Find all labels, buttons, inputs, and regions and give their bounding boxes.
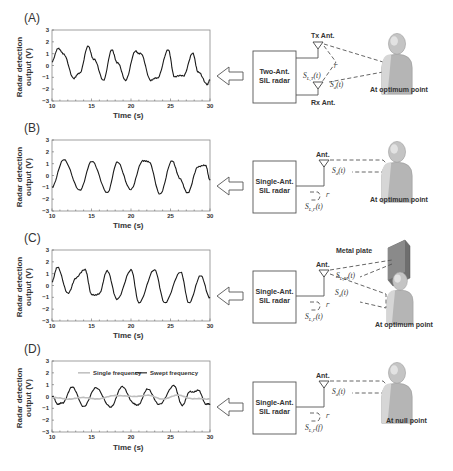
target-echo-path [324, 44, 383, 82]
figure-panel-d: (D) −3−2−101231015202530Single frequency… [0, 331, 453, 441]
antenna-icon [313, 82, 323, 89]
leakage-loop [309, 302, 320, 310]
antenna-icon [319, 160, 329, 167]
radar-box-line1: Two-Ant. [259, 67, 289, 76]
gamma-label: Γ [326, 302, 330, 308]
leakage-signal-label: SL,T(t) [303, 71, 321, 82]
rx-antenna-label: Rx Ant. [311, 99, 335, 106]
position-label: At optimum point [375, 321, 434, 329]
position-label: At null point [386, 417, 427, 425]
tx-antenna-label: Tx Ant. [311, 32, 335, 39]
radar-setup-diagram: Single-Ant.SIL radarAnt.ΓSL,Γ(t)Sd(t)At … [0, 110, 453, 220]
leakage-loop [309, 192, 320, 200]
metal-plate-label: Metal plate [336, 247, 372, 255]
antenna-label: Ant. [316, 261, 330, 268]
leakage-signal-label: SL,Γ(t) [305, 312, 323, 323]
leakage-signal-label: SL,Γ(t) [305, 202, 323, 213]
antenna-label: Ant. [316, 372, 330, 379]
output-arrow-icon [217, 177, 243, 195]
leakage-loop [309, 413, 320, 421]
target-signal-label: Sd(t) [330, 80, 344, 90]
target-signal-label: Sd(t) [332, 387, 346, 397]
output-arrow-icon [217, 398, 243, 416]
figure-panel-a: (A) −3−2−101231015202530 Radar detection… [0, 0, 453, 110]
figure-panel-c: (C) −3−2−101231015202530 Radar detection… [0, 220, 453, 330]
radar-box-line1: Single-Ant. [256, 177, 294, 186]
figure-panel-b: (B) −3−2−101231015202530 Radar detection… [0, 110, 453, 220]
radar-box-line1: Single-Ant. [256, 287, 294, 296]
radar-setup-diagram: Two-Ant.SIL radarTx Ant.Rx Ant.ΓSL,T(t)S… [0, 0, 453, 110]
antenna-label: Ant. [316, 151, 330, 158]
gamma-label: Γ [334, 63, 338, 69]
target-signal-label: Sd(t) [332, 166, 346, 176]
antenna-icon [313, 42, 323, 49]
radar-setup-diagram: Single-Ant.SIL radarAnt.ΓSL,Γ(t)Metal pl… [0, 220, 453, 330]
output-arrow-icon [217, 67, 243, 85]
gamma-label: Γ [326, 413, 330, 419]
output-arrow-icon [217, 287, 243, 305]
radar-box-line2: SIL radar [259, 186, 290, 195]
radar-box-line2: SIL radar [259, 407, 290, 416]
radar-setup-diagram: Single-Ant.SIL radarAnt.ΓSL,Γ(f)Sd(t)At … [0, 331, 453, 441]
target-signal-label: Sd(t) [335, 288, 349, 298]
position-label: At optimum point [370, 196, 429, 204]
plate-signal-label: SL,M(t) [336, 271, 356, 282]
person-icon [382, 141, 412, 202]
radar-box-line1: Single-Ant. [256, 398, 294, 407]
antenna-icon [319, 270, 329, 277]
radar-box-line2: SIL radar [259, 76, 290, 85]
position-label: At optimum point [370, 86, 429, 94]
leakage-signal-label: SL,Γ(f) [305, 423, 323, 434]
radar-box-line2: SIL radar [259, 296, 290, 305]
x-axis-label: Time (s) [113, 443, 144, 452]
gamma-label: Γ [326, 192, 330, 198]
person-icon [382, 362, 412, 423]
antenna-icon [319, 381, 329, 388]
